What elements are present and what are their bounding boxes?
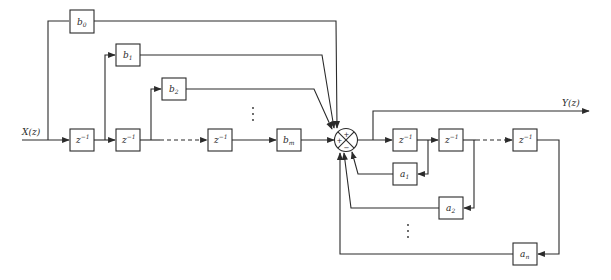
coef-b1-block: b1: [116, 44, 140, 66]
fb-delay-1-block: z−1: [393, 129, 417, 151]
summing-junction: + + −: [335, 129, 358, 153]
sum-sign-bottom: −: [344, 144, 350, 152]
ff-delay-2-block: z−1: [116, 129, 140, 151]
tap-b1-wire: [105, 55, 115, 140]
b0-to-sum-wire: [94, 21, 337, 128]
tap-an-wire: [537, 140, 559, 254]
coef-a1-block: a1: [393, 163, 417, 185]
sum-sign-top: +: [344, 131, 350, 139]
coef-an-block: an: [513, 243, 537, 265]
input-label: X(z): [21, 127, 41, 137]
tap-a2-wire: [464, 140, 474, 208]
tap-a1-wire: [418, 140, 428, 174]
ff-delay-1-block: z−1: [70, 129, 94, 151]
fb-delay-2-block: z−1: [439, 129, 463, 151]
iir-filter-block-diagram: X(z) b0 z−1 b1 z−1 b2: [0, 0, 611, 280]
input-signal: X(z): [21, 127, 69, 140]
output-label: Y(z): [562, 98, 580, 108]
a2-to-sum-wire: [344, 153, 439, 208]
ff-delay-m-block: z−1: [208, 129, 232, 151]
coef-b2-block: b2: [162, 78, 186, 100]
sum-sign-left: +: [337, 137, 343, 145]
fb-ellipsis: [407, 224, 409, 238]
coef-bm-block: bm: [277, 129, 301, 151]
fb-delay-n-block: z−1: [513, 129, 537, 151]
tap-b2-wire: [151, 89, 161, 140]
coef-b0-block: b0: [70, 10, 94, 33]
b2-to-sum-wire: [186, 89, 332, 129]
ff-ellipsis: [252, 107, 254, 121]
an-to-sum-wire: [340, 153, 513, 254]
a1-to-sum-wire: [352, 152, 393, 174]
coef-a2-block: a2: [439, 197, 463, 219]
tap-b0-wire: [48, 21, 69, 140]
